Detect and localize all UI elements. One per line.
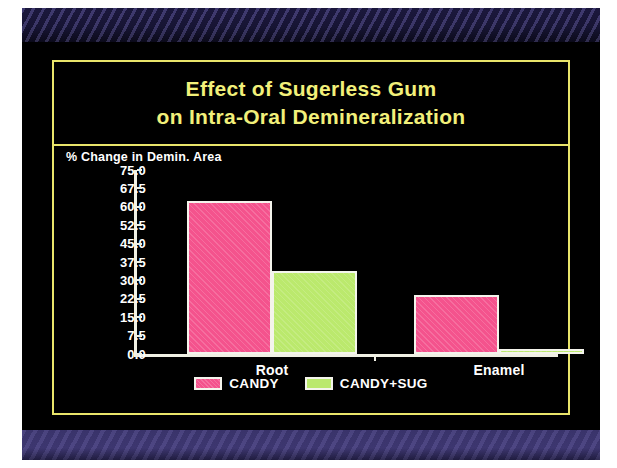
y-axis-tick: 7.5	[54, 329, 146, 343]
slide-bottom-decoration-band	[22, 430, 600, 460]
legend-swatch-candy	[194, 377, 222, 390]
x-axis-group-separator-tick	[374, 354, 376, 361]
y-axis-tick: 30.0	[54, 273, 146, 287]
bars-layer	[137, 170, 558, 354]
y-axis-tick: 75.0	[54, 163, 146, 177]
bar-root-candy	[187, 201, 272, 354]
legend-label: CANDY+SUG	[340, 376, 428, 391]
slide-frame: Effect of Sugerless Gum on Intra-Oral De…	[22, 8, 600, 460]
legend-swatch-candy-sug	[305, 377, 333, 390]
y-axis-tick: 22.5	[54, 292, 146, 306]
y-axis-tick: 0.0	[54, 347, 146, 361]
chart-title-area: Effect of Sugerless Gum on Intra-Oral De…	[54, 62, 568, 146]
chart-legend: CANDYCANDY+SUG	[54, 376, 568, 391]
y-axis-tick: 37.5	[54, 255, 146, 269]
y-axis-tick: 45.0	[54, 237, 146, 251]
slide-top-decoration-band	[22, 8, 600, 42]
legend-label: CANDY	[229, 376, 279, 391]
legend-entry: CANDY+SUG	[305, 376, 428, 391]
chart-container: Effect of Sugerless Gum on Intra-Oral De…	[52, 60, 570, 415]
x-axis-line	[134, 354, 558, 357]
y-axis-tick: 67.5	[54, 181, 146, 195]
bar-root-candy-sug	[272, 271, 357, 354]
bar-enamel-candy-sug	[499, 349, 584, 354]
y-axis-tick: 52.5	[54, 218, 146, 232]
chart-title-line-1: Effect of Sugerless Gum	[186, 75, 437, 103]
plot-area: % Change in Demin. Area 75.067.560.052.5…	[54, 148, 568, 413]
legend-entry: CANDY	[194, 376, 279, 391]
y-axis-tick: 15.0	[54, 310, 146, 324]
y-axis-tick: 60.0	[54, 200, 146, 214]
bar-enamel-candy	[414, 295, 499, 354]
chart-title-line-2: on Intra-Oral Demineralization	[157, 103, 466, 131]
